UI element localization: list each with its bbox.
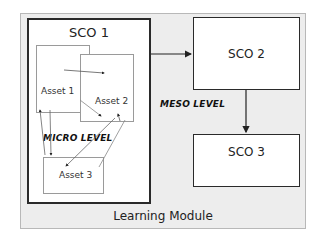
- asset1-label: Asset 1: [41, 86, 74, 96]
- learning-module-label: Learning Module: [20, 209, 306, 223]
- asset2-label: Asset 2: [95, 96, 128, 106]
- sco2-box: SCO 2: [193, 17, 300, 90]
- sco1-label: SCO 1: [27, 25, 151, 40]
- micro-level-label: MICRO LEVEL: [43, 133, 113, 143]
- asset2-box: [80, 54, 134, 122]
- sco3-label: SCO 3: [228, 145, 265, 159]
- sco3-box: SCO 3: [193, 134, 300, 187]
- meso-level-label: MESO LEVEL: [160, 99, 225, 109]
- asset3-label: Asset 3: [59, 170, 92, 180]
- sco2-label: SCO 2: [228, 47, 265, 61]
